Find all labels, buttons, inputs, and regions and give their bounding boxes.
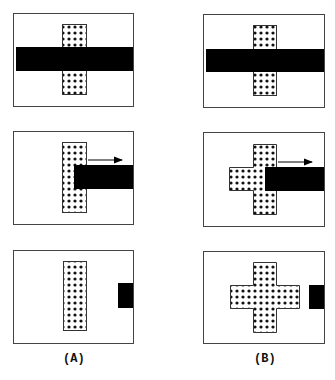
- black-occluder: [74, 165, 133, 189]
- panel-b-row2: [204, 133, 325, 227]
- panel-b-row1: [204, 15, 325, 108]
- panel-b-row3: [204, 252, 325, 344]
- panel-a-row1: [14, 14, 134, 107]
- black-occluder: [16, 47, 133, 71]
- column-label-b: (B): [254, 352, 276, 366]
- black-occluder: [206, 49, 324, 72]
- panel-a-row2: [14, 132, 134, 225]
- black-occluder: [265, 167, 324, 191]
- black-occluder: [118, 283, 133, 308]
- black-occluder: [309, 285, 324, 309]
- panel-a-row3: [14, 251, 134, 344]
- dotted-bar: [64, 262, 87, 331]
- column-label-a: (A): [63, 352, 85, 366]
- occlusion-diagram: [0, 0, 335, 380]
